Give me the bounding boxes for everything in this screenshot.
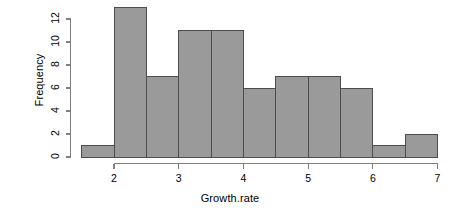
histogram-bar (243, 88, 275, 157)
histogram-bar (179, 31, 211, 158)
histogram-bar (276, 77, 308, 158)
x-axis-tick-label: 6 (363, 172, 383, 184)
plot-canvas (0, 0, 460, 222)
x-axis-tick-label: 7 (428, 172, 448, 184)
histogram-bar (405, 134, 437, 157)
x-axis-tick-label: 2 (104, 172, 124, 184)
x-axis-title: Growth.rate (0, 192, 460, 204)
y-axis-title: Frequency (26, 0, 52, 160)
histogram-bar (146, 77, 178, 158)
histogram-plot: 024681012 234567 Frequency Growth.rate (0, 0, 460, 222)
histogram-bars (82, 8, 438, 158)
histogram-bar (340, 88, 372, 157)
x-axis-tick-label: 3 (169, 172, 189, 184)
histogram-bar (211, 31, 243, 158)
histogram-bar (82, 146, 114, 158)
histogram-bar (373, 146, 405, 158)
x-axis-tick-label: 4 (233, 172, 253, 184)
histogram-bar (308, 77, 340, 158)
histogram-bar (114, 8, 146, 158)
x-axis-tick-label: 5 (298, 172, 318, 184)
